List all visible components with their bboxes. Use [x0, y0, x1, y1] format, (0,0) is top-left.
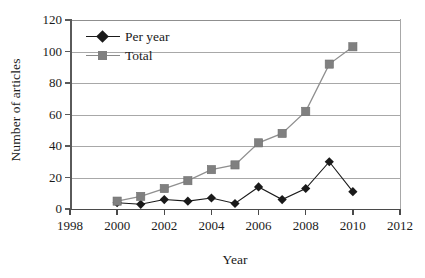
legend: Per year Total: [86, 27, 170, 65]
series-total: [113, 43, 357, 206]
legend-label-per-year: Per year: [125, 30, 170, 44]
data-series-layer: [0, 0, 425, 278]
legend-marker-total-icon: [86, 49, 120, 63]
legend-label-total: Total: [125, 49, 153, 63]
chart-figure: Number of articles 020406080100120 19982…: [0, 0, 425, 278]
legend-item-total: Total: [86, 46, 170, 65]
x-axis-title-text: Year: [223, 252, 248, 267]
legend-item-per-year: Per year: [86, 27, 170, 46]
x-axis-title: Year: [70, 252, 400, 268]
legend-marker-per-year-icon: [86, 30, 120, 44]
